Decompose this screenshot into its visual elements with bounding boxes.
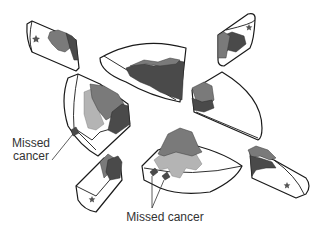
missed-cancer-label-bottom: Missed cancer — [110, 211, 220, 224]
left-large-wedge-piece — [64, 74, 130, 156]
specimen-diagram: .o { fill: #ffffff; stroke: #1a1a1a; str… — [0, 0, 327, 233]
bottom-right-margin-piece — [248, 146, 309, 198]
missed-cancer-label-left: Missed cancer — [6, 137, 56, 163]
top-right-margin-piece — [218, 14, 255, 66]
bottom-left-margin-piece — [76, 154, 122, 212]
top-left-margin-piece — [27, 21, 79, 71]
label-line-2: cancer — [6, 150, 56, 163]
bottom-center-wedge-piece — [142, 128, 242, 193]
right-wedge-piece — [192, 72, 262, 140]
